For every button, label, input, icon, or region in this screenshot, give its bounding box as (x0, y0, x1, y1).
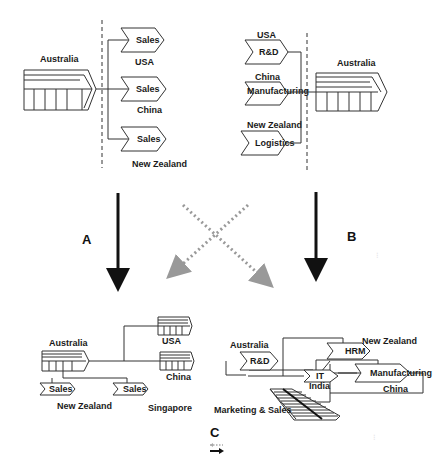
svg-text:HRM: HRM (345, 346, 366, 356)
svg-text:Manufacturing: Manufacturing (247, 86, 309, 96)
chevron-sales-usa: Sales USA (121, 28, 164, 67)
australia-factory-icon (316, 73, 387, 111)
svg-text:Sales: Sales (136, 35, 160, 45)
svg-text:Sales: Sales (137, 134, 161, 144)
panel-bottom-left: Australia USA (40, 317, 194, 413)
svg-text:USA: USA (135, 57, 155, 67)
svg-text:China: China (137, 105, 163, 115)
hub-label: Australia (337, 58, 377, 68)
chevron-logistics-nz: New Zealand Logistics (241, 120, 302, 155)
svg-text:USA: USA (257, 30, 277, 40)
svg-text:Sales: Sales (49, 384, 73, 394)
panel-top-left: Australia Sales USA Sales Chi (24, 20, 187, 169)
australia-factory-icon (24, 70, 96, 110)
svg-text:⁝: ⁝ (373, 433, 376, 442)
svg-text:China: China (166, 372, 192, 382)
diagram-canvas: Australia Sales USA Sales Chi (0, 0, 444, 476)
chevron-sales-china: Sales China (121, 77, 166, 115)
chevron-sales-singapore: Sales (113, 383, 148, 395)
svg-text:New Zealand: New Zealand (362, 336, 417, 346)
chevron-rd-usa: USA R&D (245, 30, 288, 64)
panel-top-right: USA R&D China Manufacturing New Zealand … (241, 30, 387, 170)
label-a: A (82, 232, 92, 247)
australia-factory-icon (42, 351, 89, 371)
chevron-rd-australia: R&D (240, 352, 278, 370)
chevron-hrm-nz: HRM (327, 343, 370, 359)
svg-text:⁝: ⁝ (376, 251, 379, 260)
panel-bottom-right: Australia R&D New Zealand HRM IT India M… (214, 336, 432, 442)
svg-text:New Zealand: New Zealand (132, 159, 187, 169)
chevron-manufacturing-china: China Manufacturing (245, 72, 309, 105)
dotted-arrow-icon (183, 205, 265, 280)
svg-text:New Zealand: New Zealand (247, 120, 302, 130)
svg-text:Sales: Sales (136, 84, 160, 94)
factory-china-icon (160, 352, 194, 370)
svg-text:China: China (255, 72, 281, 82)
chevron-sales-nz: Sales (40, 383, 75, 395)
svg-text:R&D: R&D (250, 356, 270, 366)
transition-arrows: A B ⁝ (82, 192, 379, 280)
factory-usa-icon (158, 317, 192, 335)
hub-label: Australia (40, 54, 80, 64)
svg-text:New Zealand: New Zealand (57, 401, 112, 411)
svg-text:China: China (383, 384, 409, 394)
svg-text:Manufacturing: Manufacturing (370, 368, 432, 378)
chevron-manufacturing-china: Manufacturing (355, 364, 432, 382)
svg-text:Australia: Australia (230, 340, 270, 350)
svg-text:USA: USA (162, 336, 182, 346)
dotted-arrow-icon (175, 205, 248, 271)
svg-text:Singapore: Singapore (148, 403, 192, 413)
svg-text:Sales: Sales (123, 384, 147, 394)
svg-text:India: India (309, 381, 331, 391)
hub-label: Australia (49, 338, 89, 348)
chevron-sales-nz: Sales New Zealand (121, 127, 187, 169)
svg-text:Marketing & Sales: Marketing & Sales (214, 405, 292, 415)
svg-text:R&D: R&D (259, 47, 279, 57)
legend-c: C (210, 425, 224, 454)
label-b: B (347, 229, 356, 244)
svg-text:IT: IT (316, 371, 325, 381)
label-c: C (210, 425, 220, 440)
